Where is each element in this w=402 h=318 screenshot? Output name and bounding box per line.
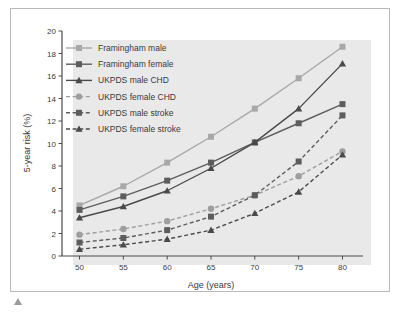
legend-label: UKPDS male stroke [98,108,174,118]
x-tick-label: 70 [250,263,259,272]
y-tick-label: 18 [47,50,56,59]
data-point-marker [339,112,345,118]
series-line [80,64,343,218]
y-tick-label: 12 [47,117,56,126]
data-point-marker [164,236,171,242]
data-point-marker [339,60,346,66]
x-tick-label: 75 [294,263,303,272]
data-point-marker [339,44,345,50]
y-tick-label: 2 [52,230,57,239]
y-tick-label: 0 [52,252,57,261]
data-point-marker [76,110,82,116]
caret-marker-icon [14,298,22,305]
data-point-marker [252,106,258,112]
data-point-marker [120,226,126,232]
data-point-marker [164,178,170,184]
legend-item-5: UKPDS female stroke [66,124,181,134]
data-point-marker [208,214,214,220]
data-point-marker [208,134,214,140]
data-point-marker [339,101,345,107]
legend-item-2: UKPDS male CHD [66,75,169,85]
data-point-marker [120,183,126,189]
legend-group: Framingham maleFramingham femaleUKPDS ma… [66,43,181,134]
y-tick-label: 14 [47,95,56,104]
x-tick-label: 50 [75,263,84,272]
data-point-marker [164,160,170,166]
y-tick-label: 6 [52,185,57,194]
y-tick-label: 4 [52,207,57,216]
data-point-marker [164,227,170,233]
data-point-marker [76,45,82,51]
series-1 [77,101,346,213]
legend-item-3: UKPDS female CHD [66,92,176,102]
data-point-marker [208,206,214,212]
y-tick-label: 8 [52,162,57,171]
data-point-marker [251,210,258,216]
legend-label: Framingham female [98,59,174,69]
x-tick-label: 65 [207,263,216,272]
data-point-marker [77,207,83,213]
legend-label: UKPDS male CHD [98,75,169,85]
data-point-marker [252,192,258,198]
legend-item-1: Framingham female [66,59,174,69]
data-point-marker [77,240,83,246]
data-point-marker [76,231,82,237]
x-tick-label: 60 [163,263,172,272]
y-tick-label: 20 [47,27,56,36]
y-axis-title: 5-year risk (%) [22,114,32,173]
data-point-marker [295,173,301,179]
legend-label: UKPDS female CHD [98,92,176,102]
data-point-marker [76,93,82,99]
data-point-marker [76,61,82,67]
y-tick-label: 16 [47,72,56,81]
legend-label: UKPDS female stroke [98,124,181,134]
data-point-marker [164,187,171,193]
x-tick-label: 80 [338,263,347,272]
data-point-marker [120,193,126,199]
y-tick-label: 10 [47,140,56,149]
data-point-marker [296,120,302,126]
axis-group: 0246810121416182050556065707580 [47,27,363,272]
data-point-marker [296,75,302,81]
data-point-marker [164,218,170,224]
x-tick-label: 55 [119,263,128,272]
risk-line-chart: 0246810121416182050556065707580 Framingh… [0,0,402,318]
data-point-marker [120,235,126,241]
legend-label: Framingham male [98,43,167,53]
legend-item-4: UKPDS male stroke [66,108,174,118]
x-axis-title: Age (years) [188,280,235,290]
legend-item-0: Framingham male [66,43,167,53]
data-point-marker [296,159,302,165]
